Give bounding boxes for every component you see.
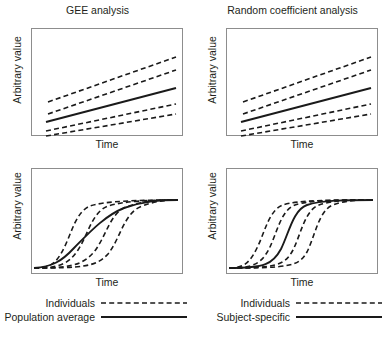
curves-gee-linear bbox=[0, 4, 195, 156]
panel-gee-sigmoid: Arbitrary value Time bbox=[0, 164, 195, 292]
panel-random-coefficient-sigmoid: Arbitrary value Time bbox=[195, 164, 390, 292]
legend-label-population-average: Population average bbox=[5, 311, 96, 323]
legend-row-population-average: Population average bbox=[28, 310, 188, 324]
figure-container: GEE analysis Arbitrary value Time Random… bbox=[0, 0, 390, 342]
legend-solid-line-icon bbox=[295, 312, 383, 322]
legend-row-individuals: Individuals bbox=[28, 296, 188, 310]
individual-curve-3 bbox=[34, 200, 178, 268]
population-average-curve bbox=[34, 200, 178, 268]
legend-dashed-line-icon bbox=[295, 298, 383, 308]
legend-solid-line-icon bbox=[100, 312, 188, 322]
individual-curve-1 bbox=[34, 200, 178, 268]
x-axis-label: Time bbox=[31, 276, 183, 288]
legend-row-subject-specific: Subject-specific bbox=[223, 310, 383, 324]
curves-gee-sigmoid bbox=[0, 164, 195, 292]
legend-left: Individuals Population average bbox=[28, 296, 188, 324]
legend-dashed-line-icon bbox=[100, 298, 188, 308]
x-axis-label: Time bbox=[31, 138, 183, 150]
individual-line-2 bbox=[243, 70, 371, 114]
legend-label-individuals: Individuals bbox=[240, 297, 290, 309]
x-axis-label: Time bbox=[226, 138, 378, 150]
curves-random-coefficient-linear bbox=[195, 4, 390, 156]
individual-line-1 bbox=[243, 57, 371, 102]
legend-label-individuals: Individuals bbox=[45, 297, 95, 309]
individual-curve-1 bbox=[229, 200, 373, 268]
legend-row-individuals: Individuals bbox=[223, 296, 383, 310]
curves-random-coefficient-sigmoid bbox=[195, 164, 390, 292]
individual-line-1 bbox=[48, 57, 176, 102]
legend-label-subject-specific: Subject-specific bbox=[216, 311, 290, 323]
panel-random-coefficient-linear: Random coefficient analysis Arbitrary va… bbox=[195, 4, 390, 156]
individual-line-2 bbox=[48, 70, 176, 114]
legend-right: Individuals Subject-specific bbox=[223, 296, 383, 324]
panel-gee-linear: GEE analysis Arbitrary value Time bbox=[0, 4, 195, 156]
individual-curve-4 bbox=[34, 200, 178, 268]
individual-curve-2 bbox=[34, 200, 178, 268]
x-axis-label: Time bbox=[226, 276, 378, 288]
